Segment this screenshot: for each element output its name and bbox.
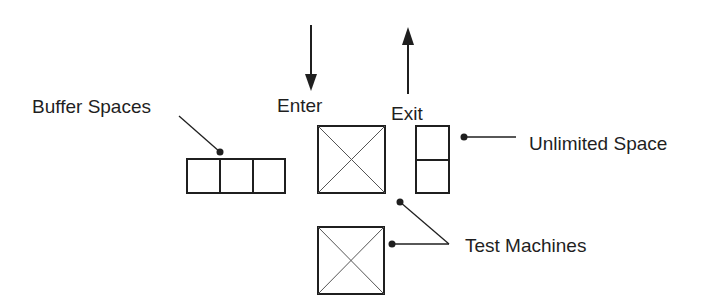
enter-label: Enter: [277, 95, 323, 116]
test-machine-2: [318, 227, 384, 294]
enter-arrow-icon: [305, 25, 317, 91]
test-machines-label: Test Machines: [465, 235, 586, 256]
test-machine-1: [318, 126, 385, 193]
exit-label: Exit: [391, 103, 423, 124]
buffer-leader-line: [179, 116, 224, 156]
unlimited-space-box: [416, 126, 449, 193]
exit-arrow-icon: [402, 27, 414, 94]
diagram-canvas: Buffer Spaces Enter Exit Unlimited Space…: [0, 0, 721, 307]
unlimited-space-label: Unlimited Space: [529, 133, 667, 154]
test-machines-leader-lines: [389, 199, 450, 248]
buffer-spaces-box: [187, 159, 285, 193]
buffer-spaces-label: Buffer Spaces: [32, 96, 151, 117]
unlimited-leader-line: [461, 134, 517, 141]
